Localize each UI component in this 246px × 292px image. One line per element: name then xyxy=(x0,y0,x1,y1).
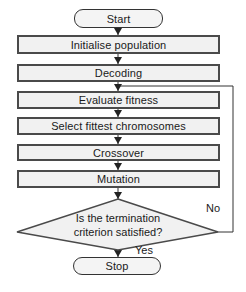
select-fittest-node: Select fittest chromosomes xyxy=(17,117,220,135)
decoding-node: Decoding xyxy=(17,64,220,82)
yes-label: Yes xyxy=(135,244,153,256)
crossover-node: Crossover xyxy=(17,144,220,161)
no-label: No xyxy=(206,202,220,214)
start-node: Start xyxy=(74,9,163,28)
flowchart: Start Initialise population Decoding Eva… xyxy=(0,0,246,292)
evaluate-fitness-node: Evaluate fitness xyxy=(17,91,220,109)
initialise-population-node: Initialise population xyxy=(17,35,220,54)
decision-text-line2: criterion satisfied? xyxy=(48,225,188,239)
mutation-node: Mutation xyxy=(17,170,220,188)
stop-node: Stop xyxy=(73,257,161,275)
decision-text-line1: Is the termination xyxy=(48,211,188,225)
